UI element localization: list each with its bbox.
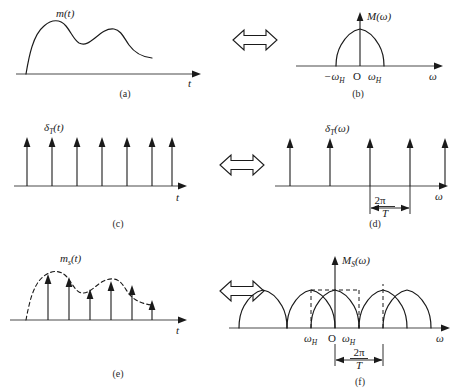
- double-headed-hollow-arrow-icon: [231, 27, 279, 53]
- panel-c-axis-arrowhead: [178, 182, 187, 189]
- panel-e-axis-label: t: [176, 324, 180, 336]
- impulse: [87, 289, 94, 320]
- panel-d-measure-numerator: 2π: [374, 194, 386, 206]
- panel-b-signal-label: M(ω): [366, 10, 392, 23]
- arrow-shape: [233, 30, 277, 50]
- impulse: [99, 137, 106, 186]
- panel-c-caption: (c): [88, 218, 148, 229]
- panel-c: δT(t) t (c): [0, 118, 230, 233]
- impulse: [367, 138, 374, 186]
- panel-d-axis-label: ω: [435, 190, 443, 202]
- panel-e-sampled-impulses: [45, 274, 156, 320]
- impulse: [66, 277, 73, 320]
- panel-c-plot: δT(t) t: [0, 118, 230, 233]
- panel-d-axis-arrowhead: [439, 182, 448, 189]
- impulse: [442, 138, 449, 186]
- replica: [239, 290, 287, 328]
- panel-b-caption: (b): [328, 88, 388, 99]
- panel-f-axis-label: ω: [436, 332, 444, 344]
- panel-e-caption: (e): [88, 368, 148, 379]
- panel-f-axis-arrowhead: [441, 324, 450, 331]
- arrow-shape: [220, 155, 264, 175]
- panel-f-signal-label: MS(ω): [341, 254, 370, 269]
- panel-f-plot: ωH O ωH 2π T MS(ω) ω: [225, 240, 473, 390]
- impulse: [124, 137, 131, 186]
- impulse: [129, 285, 136, 320]
- panel-d-spacing-measure: 2π T: [370, 186, 410, 219]
- panel-d-signal-label: δT(ω): [325, 122, 350, 137]
- panel-f-vertical-arrowhead: [332, 256, 339, 265]
- panel-f-tick-left-wh: ωH: [304, 332, 318, 347]
- panel-a: m(t) t (a): [0, 0, 230, 110]
- transform-pair-arrow-1: [231, 27, 279, 53]
- impulse: [149, 137, 156, 186]
- panel-a-axis-label: t: [188, 77, 192, 89]
- panel-c-impulse-train: [24, 137, 176, 186]
- double-headed-hollow-arrow-icon: [218, 152, 266, 178]
- panel-d-impulse-train: [287, 138, 449, 186]
- panel-f-tick-right-wh: ωH: [342, 332, 356, 347]
- panel-e-axis-arrowhead: [178, 316, 187, 323]
- panel-c-signal-label: δT(t): [44, 121, 64, 136]
- panel-a-signal-curve: [26, 21, 152, 74]
- panel-e-signal-label: ms(t): [60, 252, 82, 267]
- panel-d-caption: (d): [345, 218, 405, 229]
- panel-b-tick-neg-wh: −ωH: [324, 70, 345, 85]
- panel-f-caption: (f): [330, 376, 390, 387]
- panel-b-vertical-arrowhead: [357, 12, 364, 21]
- impulse: [74, 137, 81, 186]
- impulse: [24, 137, 31, 186]
- panel-f-measure-denominator: T: [356, 359, 363, 371]
- panel-a-axis-arrowhead: [192, 70, 201, 77]
- impulse: [327, 138, 334, 186]
- panel-b-tick-origin: O: [353, 70, 361, 82]
- impulse: [45, 274, 52, 320]
- impulse: [169, 137, 176, 186]
- panel-d: 2π T δT(ω) ω (d): [267, 118, 473, 233]
- panel-a-caption: (a): [95, 88, 155, 99]
- panel-f-tick-origin: O: [328, 332, 336, 344]
- impulse: [149, 300, 156, 320]
- transform-pair-arrow-2: [218, 152, 266, 178]
- panel-a-signal-label: m(t): [56, 7, 75, 20]
- panel-f-measure-numerator: 2π: [353, 346, 365, 358]
- impulse: [287, 138, 294, 186]
- impulse: [49, 137, 56, 186]
- panel-f: ωH O ωH 2π T MS(ω) ω (f): [225, 240, 473, 390]
- panel-b-axis-arrowhead: [434, 62, 443, 69]
- panel-e: ms(t) t (e): [0, 240, 230, 390]
- impulse: [108, 281, 115, 320]
- panel-f-spacing-measure: 2π T: [335, 344, 383, 371]
- panel-b-tick-pos-wh: ωH: [368, 70, 382, 85]
- sampling-theorem-figure: m(t) t (a) M(ω) −ωH O ωH ω (b): [0, 0, 473, 391]
- panel-c-axis-label: t: [176, 191, 180, 203]
- panel-b-axis-label: ω: [429, 70, 437, 82]
- panel-d-plot: 2π T δT(ω) ω: [267, 118, 473, 233]
- impulse: [407, 138, 414, 186]
- panel-b: M(ω) −ωH O ωH ω (b): [288, 0, 473, 110]
